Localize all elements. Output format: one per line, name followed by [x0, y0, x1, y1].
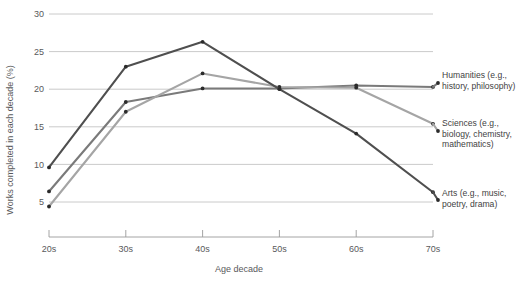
x-tick-label: 40s: [195, 244, 210, 254]
series-line-0: [49, 85, 433, 191]
y-tick-label: 5: [39, 197, 44, 207]
data-point: [201, 40, 205, 44]
series-label-sciences-line3: mathematics): [442, 139, 512, 150]
series-label-humanities: Humanities (e.g., history, philosophy): [442, 70, 515, 91]
x-tick-label: 60s: [349, 244, 364, 254]
series-line-2: [49, 42, 433, 192]
label-anchor-point: [436, 129, 440, 133]
series-label-sciences-line2: biology, chemistry,: [442, 129, 512, 140]
data-point: [47, 190, 51, 194]
series-label-arts-line2: poetry, drama): [442, 199, 506, 210]
data-point: [354, 86, 358, 90]
label-anchor-point: [436, 198, 440, 202]
series-label-arts: Arts (e.g., music, poetry, drama): [442, 188, 506, 209]
series-label-humanities-line1: Humanities (e.g.,: [442, 70, 515, 81]
data-point: [201, 87, 205, 91]
x-tick-label: 20s: [42, 244, 57, 254]
series-label-sciences-line1: Sciences (e.g.,: [442, 118, 512, 129]
data-point: [47, 166, 51, 170]
x-tick-label: 50s: [272, 244, 287, 254]
data-point: [124, 110, 128, 114]
series-label-humanities-line2: history, philosophy): [442, 81, 515, 92]
y-axis-tick-labels: 30 25 20 15 10 5: [34, 9, 44, 207]
x-axis-tick-labels: 20s 30s 40s 50s 60s 70s: [42, 244, 441, 254]
y-tick-label: 15: [34, 122, 44, 132]
y-tick-label: 25: [34, 47, 44, 57]
y-tick-label: 20: [34, 84, 44, 94]
series-label-arts-line1: Arts (e.g., music,: [442, 188, 506, 199]
x-tick-label: 30s: [119, 244, 134, 254]
data-point: [278, 87, 282, 91]
y-tick-label: 10: [34, 160, 44, 170]
line-chart: 30 25 20 15 10 5 20s 30s 40s 50s 60s 70s: [0, 0, 526, 285]
label-anchor-point: [436, 81, 440, 85]
leader-lines: [433, 81, 440, 202]
x-tick-label: 70s: [426, 244, 441, 254]
y-tick-label: 30: [34, 9, 44, 19]
data-point: [354, 132, 358, 136]
data-point: [124, 100, 128, 104]
gridlines: [49, 14, 433, 202]
series-layer: [47, 40, 435, 208]
x-axis-title: Age decade: [215, 264, 263, 274]
y-axis-title: Works completed in each decade (%): [5, 65, 15, 214]
data-point: [201, 72, 205, 76]
x-axis: [49, 230, 433, 237]
data-point: [124, 65, 128, 69]
data-point: [47, 205, 51, 209]
series-label-sciences: Sciences (e.g., biology, chemistry, math…: [442, 118, 512, 150]
